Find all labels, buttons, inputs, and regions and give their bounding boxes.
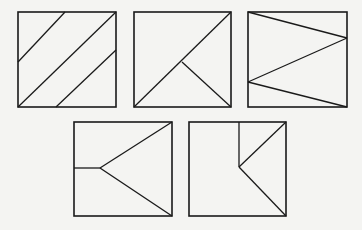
dividing-line [239, 167, 286, 216]
dividing-line [56, 50, 116, 107]
square-4 [74, 122, 172, 216]
dividing-line [134, 12, 231, 107]
dividing-line [239, 122, 286, 167]
square-5 [189, 122, 286, 216]
dividing-line [18, 12, 116, 107]
dividing-line [248, 82, 347, 107]
dividing-line [248, 12, 347, 38]
square-1 [18, 12, 116, 107]
dividing-line [182, 62, 231, 107]
dividing-line [100, 122, 172, 168]
dividing-line [100, 168, 172, 216]
square-outline [74, 122, 172, 216]
squares-diagram [0, 0, 362, 230]
square-2 [134, 12, 231, 107]
dividing-line [18, 12, 65, 62]
square-3 [248, 12, 347, 107]
dividing-line [248, 38, 347, 82]
